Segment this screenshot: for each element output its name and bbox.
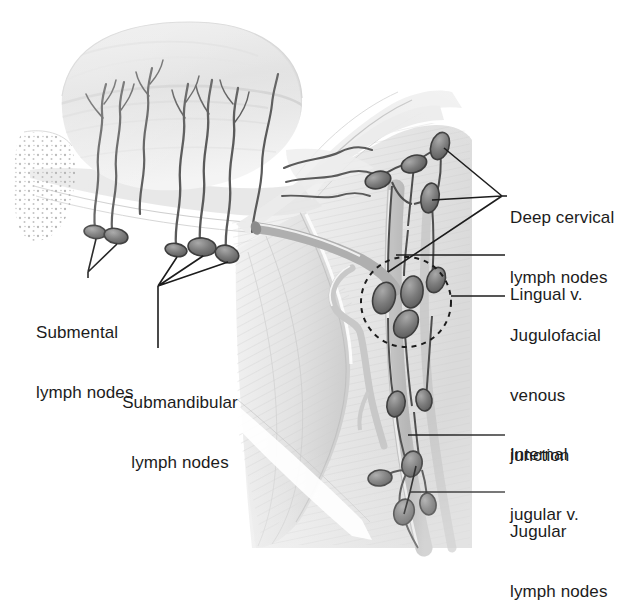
label-jugular-nodes-line1: Jugular (510, 522, 608, 542)
label-submandibular-line1: Submandibular (96, 393, 264, 413)
label-internal-jugular-line1: Internal (510, 445, 579, 465)
label-jugulofacial-line2: venous (510, 386, 601, 406)
label-jugular-nodes-line2: lymph nodes (510, 582, 608, 602)
label-submandibular-lymph-nodes: Submandibular lymph nodes (96, 353, 264, 493)
label-submandibular-line2: lymph nodes (96, 453, 264, 473)
label-jugular-lymph-nodes: Jugular lymph nodes (510, 482, 608, 604)
label-deep-cervical-line1: Deep cervical (510, 208, 614, 228)
label-jugulofacial-line1: Jugulofacial (510, 326, 601, 346)
label-submental-line1: Submental (36, 323, 134, 343)
